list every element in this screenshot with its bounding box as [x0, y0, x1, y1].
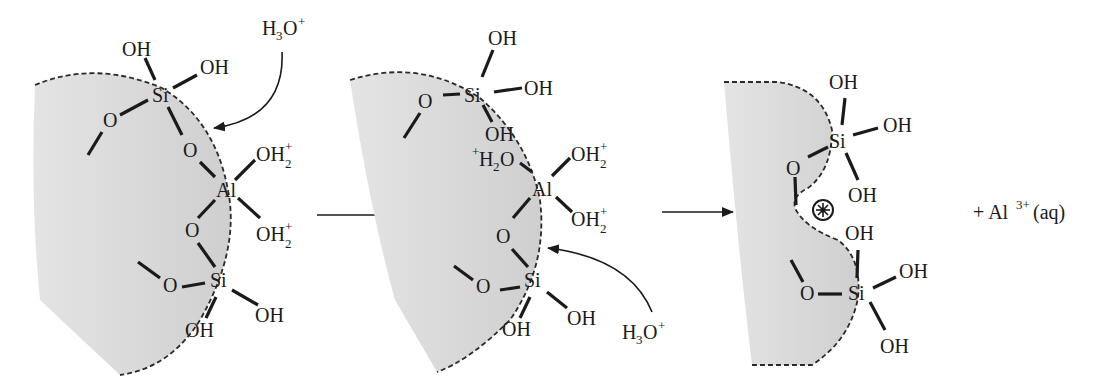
o-label: O — [800, 282, 814, 304]
oh2-plus-label: OH + 2 — [571, 139, 607, 171]
al-label: Al — [216, 179, 236, 201]
oh-label: OH — [829, 71, 858, 93]
svg-text:OH: OH — [571, 208, 600, 230]
svg-text:+: + — [600, 139, 607, 154]
svg-text:3: 3 — [276, 28, 283, 43]
curved-arrow-icon — [548, 248, 652, 312]
o-label: O — [786, 157, 800, 179]
aluminum-ion-product: + Al 3+ (aq) — [973, 197, 1065, 224]
svg-text:H: H — [479, 148, 493, 170]
si-label: Si — [464, 84, 481, 106]
oh-label: OH — [185, 319, 214, 341]
svg-text:O: O — [283, 17, 297, 39]
svg-text:+: + — [298, 14, 305, 29]
svg-text:3: 3 — [636, 332, 643, 347]
svg-text:2: 2 — [600, 221, 607, 236]
svg-text:(aq): (aq) — [1033, 201, 1065, 224]
dissolution-diagram: OH OH Si O O Al OH + 2 OH + 2 O Si O OH … — [0, 0, 1096, 383]
si-label: Si — [829, 130, 846, 152]
oh-label: OH — [883, 114, 912, 136]
o-label: O — [185, 219, 199, 241]
oh2-plus-label: OH + 2 — [571, 204, 607, 236]
svg-text:2: 2 — [600, 156, 607, 171]
o-label: O — [476, 275, 490, 297]
oh-label: OH — [488, 27, 517, 49]
si-label: Si — [152, 84, 169, 106]
oh-label: OH — [502, 318, 531, 340]
oh-label: OH — [524, 77, 553, 99]
o-label: O — [183, 139, 197, 161]
vacancy-icon — [813, 200, 833, 220]
svg-text:H: H — [262, 17, 276, 39]
panel-1: OH OH Si O O Al OH + 2 OH + 2 O Si O OH … — [33, 14, 305, 375]
svg-text:OH: OH — [571, 143, 600, 165]
oh-label: OH — [567, 307, 596, 329]
water-ligand-label: + H 2 O — [472, 144, 514, 174]
panel-2: OH OH Si O OH + H 2 O Al OH + 2 OH + 2 O… — [350, 27, 665, 372]
oh-label: OH — [899, 260, 928, 282]
oh2-plus-label: OH + 2 — [256, 139, 292, 171]
o-label: O — [496, 225, 510, 247]
o-label: O — [103, 109, 117, 131]
svg-text:2: 2 — [285, 156, 292, 171]
o-label: O — [418, 90, 432, 112]
oh-label: OH — [122, 38, 151, 60]
oh-label: OH — [880, 335, 909, 357]
hydronium-label: H 3 O + — [262, 14, 305, 43]
svg-text:O: O — [643, 321, 657, 343]
svg-text:+: + — [285, 139, 292, 154]
oh-label: OH — [848, 184, 877, 206]
svg-text:+: + — [600, 204, 607, 219]
svg-text:+: + — [285, 219, 292, 234]
si-label: Si — [848, 282, 865, 304]
o-label: O — [163, 274, 177, 296]
svg-text:2: 2 — [493, 159, 500, 174]
svg-text:3+: 3+ — [1016, 197, 1030, 212]
oh-label: OH — [200, 56, 229, 78]
si-label: Si — [524, 269, 541, 291]
svg-text:+ Al: + Al — [973, 201, 1009, 223]
svg-text:H: H — [622, 321, 636, 343]
svg-text:OH: OH — [256, 143, 285, 165]
al-label: Al — [532, 178, 552, 200]
si-label: Si — [210, 269, 227, 291]
oh-label: OH — [845, 222, 874, 244]
panel-3: OH OH Si O OH OH OH Si O OH + Al 3+ (aq) — [724, 71, 1065, 365]
svg-text:+: + — [658, 318, 665, 333]
mineral-surface-3 — [724, 82, 859, 365]
oh2-plus-label: OH + 2 — [256, 219, 292, 251]
hydronium-label: H 3 O + — [622, 318, 665, 347]
oh-label: OH — [255, 304, 284, 326]
svg-text:2: 2 — [285, 236, 292, 251]
oh-label: OH — [485, 123, 514, 145]
svg-text:OH: OH — [256, 223, 285, 245]
svg-text:O: O — [500, 148, 514, 170]
